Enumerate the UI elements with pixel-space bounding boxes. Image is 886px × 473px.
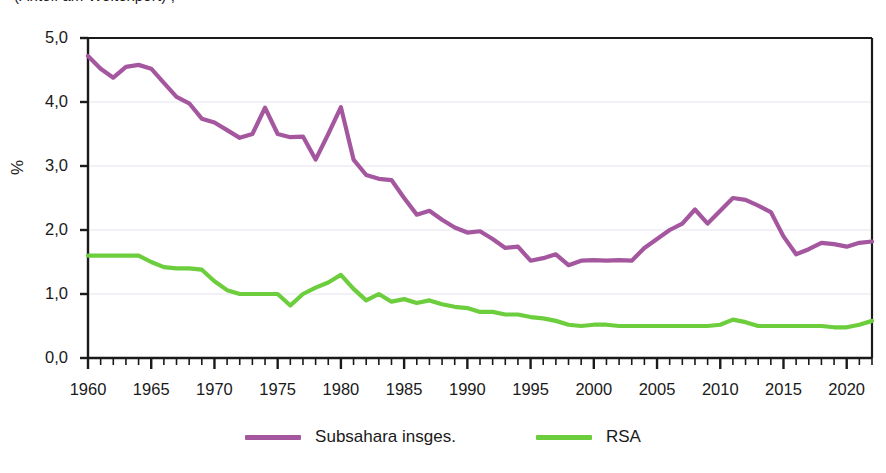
legend-label-rsa: RSA [606,427,641,447]
x-tick-label: 2015 [765,380,802,399]
x-tick-label: 1985 [386,380,423,399]
chart-legend: Subsahara insges. RSA [0,427,886,447]
legend-item-rsa[interactable]: RSA [536,427,641,447]
x-tick-label: 1970 [196,380,233,399]
x-tick-label: 1995 [512,380,549,399]
x-tick-label: 2000 [575,380,612,399]
x-tick-label: 1990 [449,380,486,399]
x-tick-label: 1980 [323,380,360,399]
x-tick-label: 2010 [702,380,739,399]
legend-swatch-subsahara [245,435,301,440]
chart-container: (Anteil am Weltexport) , % 0,01,02,03,04… [0,0,886,473]
series-line-subsahara [88,56,872,265]
x-tick-label: 2005 [639,380,676,399]
legend-label-subsahara: Subsahara insges. [315,427,456,447]
x-tick-label: 1965 [133,380,170,399]
x-tick-label: 2020 [828,380,865,399]
legend-item-subsahara[interactable]: Subsahara insges. [245,427,456,447]
legend-swatch-rsa [536,435,592,440]
x-tick-label: 1960 [70,380,107,399]
x-tick-label: 1975 [259,380,296,399]
series-line-rsa [88,256,872,328]
plot-area [0,0,886,473]
